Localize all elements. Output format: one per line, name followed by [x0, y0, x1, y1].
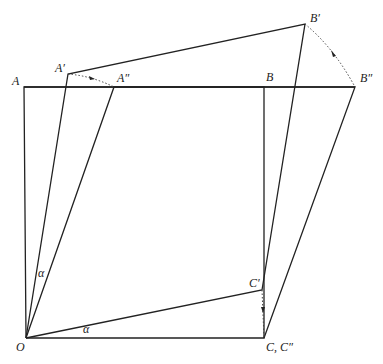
- label-B-dprime: B″: [360, 71, 373, 85]
- label-A: A: [11, 74, 20, 88]
- label-O: O: [16, 340, 25, 354]
- label-A-dprime: A″: [116, 71, 130, 85]
- diagram-canvas: A A′ A″ B B′ B″ O C, C″ C′ α α: [0, 0, 383, 364]
- label-B-prime: B′: [310, 11, 320, 25]
- label-alpha-top: α: [38, 266, 45, 280]
- label-A-prime: A′: [54, 61, 65, 75]
- label-C: C, C″: [266, 340, 294, 354]
- arrow-B-prime-to-B-dprime: [305, 24, 355, 87]
- label-B: B: [266, 70, 274, 84]
- arrowhead-B: [331, 50, 336, 57]
- sheared-parallelogram: [26, 87, 355, 338]
- arrowhead-A: [89, 76, 95, 80]
- label-C-prime: C′: [249, 276, 260, 290]
- label-alpha-bottom: α: [83, 322, 90, 336]
- arrow-A-prime-to-A-dprime: [68, 74, 114, 87]
- rotated-quad: [26, 24, 305, 338]
